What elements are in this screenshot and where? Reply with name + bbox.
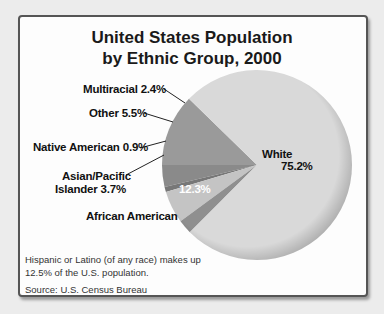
label-other: Other 5.5% (89, 107, 147, 119)
label-asian-2: Islander 3.7% (55, 183, 126, 195)
label-white-pct: 75.2% (281, 160, 313, 172)
label-african-american: African American (86, 210, 178, 222)
label-white: White (262, 148, 292, 160)
label-native-american: Native American 0.9% (33, 141, 148, 153)
chart-note: Hispanic or Latino (of any race) makes u… (25, 253, 205, 279)
pie-shadow (162, 70, 352, 260)
label-asian-1: Asian/Pacific (62, 170, 124, 182)
label-african-american-pct: 12.3% (179, 183, 211, 195)
label-multiracial: Multiracial 2.4% (83, 83, 166, 95)
chart-source: Source: U.S. Census Bureau (25, 284, 147, 295)
